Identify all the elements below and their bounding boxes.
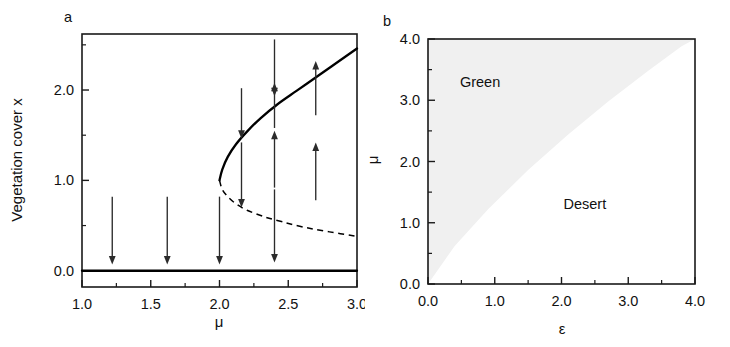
panel-a-x-axis-title: μ [215,313,224,330]
flow-arrow-up-3 [238,142,245,207]
panel-a-flow-arrows [109,39,319,264]
flow-arrow-down-0 [109,197,116,265]
panel-a: a 1.01.52.02.53.00.01.02.0 μ Vegetation … [0,0,365,347]
panel-a-label: a [64,9,73,25]
flow-arrow-down-1 [164,197,171,265]
arrow-head [312,61,319,69]
x-tick-label: 2.5 [278,296,298,312]
panel-b-x-axis-title: ε [559,320,566,337]
y-tick-label: 1.0 [54,172,74,188]
flow-arrow-up-10 [312,61,319,115]
panel-b-y-axis-title: μ [365,156,381,165]
arrow-head [216,256,223,264]
arrow-head [271,254,278,263]
y-tick-label: 3.0 [400,92,420,108]
flow-arrow-down-5 [271,189,278,262]
x-tick-label: 1.0 [485,293,505,309]
flow-arrow-down-4 [238,88,245,139]
arrow-head [164,256,171,264]
region-label-desert: Desert [564,196,607,212]
x-tick-label: 2.0 [551,293,571,309]
panel-b-label: b [383,13,391,29]
y-tick-label: 4.0 [400,31,420,47]
x-tick-label: 2.0 [209,296,229,312]
arrow-head [271,131,278,140]
x-tick-label: 1.0 [72,296,92,312]
flow-arrow-down-2 [216,197,223,265]
x-tick-label: 0.0 [418,293,438,309]
y-tick-label: 2.0 [54,82,74,98]
x-tick-label: 3.0 [618,293,638,309]
panel-a-tick-labels: 1.01.52.02.53.00.01.02.0 [54,82,365,312]
y-tick-label: 2.0 [400,154,420,170]
y-tick-label: 1.0 [400,215,420,231]
y-tick-label: 0.0 [54,263,74,279]
arrow-head [312,142,319,151]
x-tick-label: 4.0 [685,293,705,309]
branch-lower-unstable [220,180,358,236]
flow-arrow-down-8 [271,39,278,96]
y-tick-label: 0.0 [400,276,420,292]
x-tick-label: 1.5 [141,296,161,312]
panel-b: b 0.01.02.03.04.00.01.02.03.04.0 Green D… [365,0,730,347]
panel-a-y-axis-title: Vegetation cover x [8,98,25,222]
branch-upper-stable [220,48,358,180]
arrow-head [271,88,278,97]
region-label-green: Green [460,74,500,90]
flow-arrow-up-9 [312,142,319,200]
figure-root: a 1.01.52.02.53.00.01.02.0 μ Vegetation … [0,0,730,347]
x-tick-label: 3.0 [347,296,365,312]
flow-arrow-up-6 [271,131,278,188]
arrow-head [109,256,116,264]
